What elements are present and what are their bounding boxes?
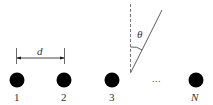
source-dot [57, 73, 72, 88]
source-dot [189, 73, 204, 88]
element-3: 3 [105, 73, 120, 104]
source-dot [10, 73, 25, 88]
source-dot [105, 73, 120, 88]
element-N: N [189, 73, 204, 104]
spacing-label: d [37, 45, 43, 57]
steering-angle: θ [131, 4, 163, 73]
beam-direction-line [131, 10, 163, 73]
ellipsis: ... [152, 73, 161, 84]
element-label: N [190, 91, 199, 103]
element-label: 2 [61, 91, 67, 103]
element-1: 1 [10, 73, 25, 104]
element-label: 1 [14, 91, 20, 103]
array-diagram: d θ 1 2 3 ... N [0, 0, 213, 105]
spacing-dimension: d [17, 45, 65, 64]
angle-arc [131, 47, 143, 50]
element-label: 3 [109, 91, 115, 103]
angle-label: θ [137, 28, 143, 40]
element-2: 2 [57, 73, 72, 104]
